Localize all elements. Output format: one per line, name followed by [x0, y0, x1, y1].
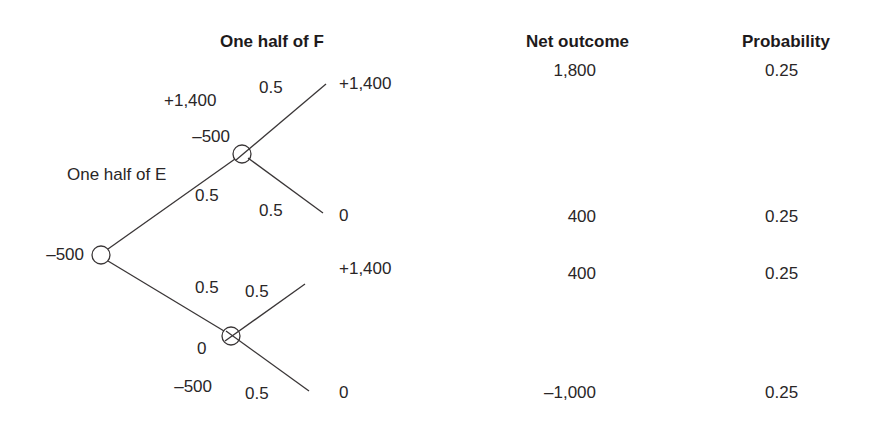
upper-up-payoff: +1,400	[339, 74, 391, 94]
lower-up-payoff: +1,400	[339, 259, 391, 279]
net-outcome-2: 400	[520, 207, 596, 227]
root-node-icon	[92, 246, 110, 264]
stage1-label: One half of E	[67, 165, 166, 185]
lower-branch-prob: 0.5	[195, 278, 219, 298]
root-value: –500	[20, 245, 84, 265]
probability-2: 0.25	[765, 207, 798, 227]
lower-down-payoff: 0	[339, 383, 348, 403]
lower-down-prob: 0.5	[245, 384, 269, 404]
upper-down-prob: 0.5	[259, 201, 283, 221]
lower-up-prob: 0.5	[245, 282, 269, 302]
upper-cash-out: –500	[170, 127, 230, 147]
upper-down-payoff: 0	[339, 206, 348, 226]
upper-cash-in: +1,400	[164, 91, 216, 111]
upper-chance-node-icon	[233, 145, 251, 163]
probability-1: 0.25	[765, 61, 798, 81]
lower-cash-out: –500	[150, 377, 212, 397]
decision-tree	[0, 0, 884, 426]
probability-4: 0.25	[765, 383, 798, 403]
upper-branch-prob: 0.5	[195, 186, 219, 206]
header-probability: Probability	[742, 32, 830, 52]
header-net-outcome: Net outcome	[526, 32, 629, 52]
upper-up-prob: 0.5	[259, 78, 283, 98]
net-outcome-3: 400	[520, 264, 596, 284]
header-one-half-of-f: One half of F	[220, 32, 324, 52]
net-outcome-1: 1,800	[520, 61, 596, 81]
net-outcome-4: –1,000	[520, 383, 596, 403]
lower-cash-in: 0	[197, 339, 206, 359]
probability-3: 0.25	[765, 264, 798, 284]
